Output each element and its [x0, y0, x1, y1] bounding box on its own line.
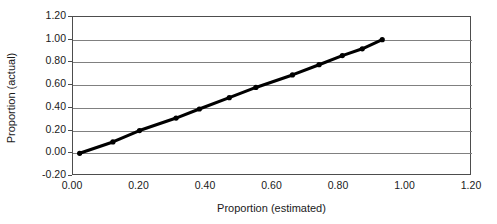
y-tick-label: 0.40 — [22, 101, 66, 112]
data-series — [77, 37, 385, 156]
x-tick-label: 0.40 — [175, 180, 235, 191]
x-axis-title: Proportion (estimated) — [72, 203, 471, 214]
data-point — [197, 106, 202, 111]
y-tick-label: 1.20 — [22, 10, 66, 21]
y-tick-label: 0.00 — [22, 146, 66, 157]
data-point — [316, 62, 321, 67]
data-point — [253, 85, 258, 90]
x-tick-label: 1.20 — [441, 180, 497, 191]
data-point — [380, 37, 385, 42]
x-tick-label: 0.20 — [109, 180, 169, 191]
y-tick-label: 0.60 — [22, 78, 66, 89]
x-tick-label: 0.80 — [308, 180, 368, 191]
data-point — [360, 46, 365, 51]
data-point — [227, 95, 232, 100]
y-tick-label: 1.00 — [22, 33, 66, 44]
y-tick-label: 0.80 — [22, 55, 66, 66]
data-point — [77, 151, 82, 156]
y-axis-title: Proportion (actual) — [2, 14, 20, 182]
x-tick-label: 0.00 — [42, 180, 102, 191]
data-point — [137, 128, 142, 133]
data-point — [290, 72, 295, 77]
plot-area — [72, 16, 471, 175]
plot-canvas — [73, 17, 472, 176]
x-tick-label: 1.00 — [375, 180, 435, 191]
chart-figure: Proportion (actual) -0.200.000.200.400.6… — [0, 0, 497, 224]
gridlines — [73, 41, 472, 154]
data-point — [110, 139, 115, 144]
data-point — [173, 115, 178, 120]
y-tick-label: -0.20 — [22, 169, 66, 180]
x-tick-label: 0.60 — [242, 180, 302, 191]
y-axis-title-text: Proportion (actual) — [6, 53, 17, 144]
data-point — [340, 53, 345, 58]
y-tick-label: 0.20 — [22, 124, 66, 135]
